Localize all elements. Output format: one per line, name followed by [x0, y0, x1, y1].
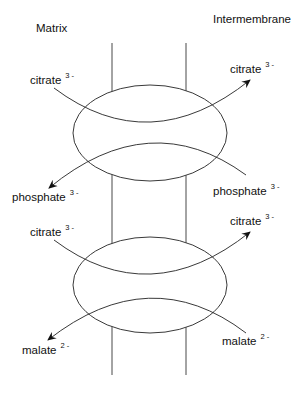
malate-right-label: malate2 - [222, 336, 269, 348]
phosphate-left-label: phosphate3 - [12, 192, 78, 204]
malate-left-label: malate2 - [22, 345, 69, 357]
citrate-out-label-1: citrate3 - [230, 64, 274, 76]
transporter-top [73, 85, 227, 181]
intermembrane-label: Intermembrane [213, 14, 291, 26]
phosphate-right-label: phosphate3 - [213, 186, 279, 198]
matrix-label: Matrix [36, 23, 67, 35]
citrate-in-label-2: citrate3 - [30, 227, 74, 239]
transporter-bottom [73, 237, 227, 333]
citrate-in-label-1: citrate3 - [30, 75, 74, 87]
citrate-out-label-2: citrate3 - [230, 216, 274, 228]
